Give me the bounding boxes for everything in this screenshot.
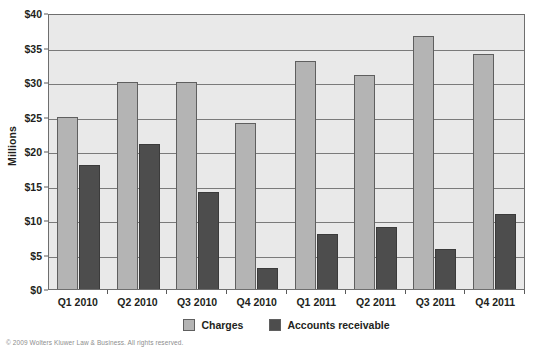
x-axis-tick-cell: [227, 290, 287, 295]
y-axis-tick-label: $25: [0, 112, 42, 124]
y-axis-tick-label: $15: [0, 181, 42, 193]
bar-group: [287, 15, 346, 289]
y-axis-tick-label: $40: [0, 8, 42, 20]
bar-charges: [354, 75, 375, 289]
y-axis-tick-label: $5: [0, 250, 42, 262]
x-axis-tick-label: Q1 2010: [48, 296, 108, 314]
legend-label: Accounts receivable: [287, 319, 389, 331]
x-axis-tick-label: Q3 2011: [406, 296, 466, 314]
legend-entry: Charges: [183, 319, 243, 331]
bar-charges: [413, 36, 434, 289]
bar-group: [108, 15, 167, 289]
y-axis-tick-label: $35: [0, 43, 42, 55]
bar-group: [346, 15, 405, 289]
legend-label: Charges: [201, 319, 243, 331]
x-axis-tick-label: Q3 2010: [167, 296, 227, 314]
bar-group: [49, 15, 108, 289]
y-axis-tick-labels: $0$5$10$15$20$25$30$35$40: [0, 0, 48, 349]
bars-layer: [49, 15, 524, 289]
bar-group: [227, 15, 286, 289]
bar-accounts-receivable: [79, 165, 100, 289]
bar-group: [465, 15, 524, 289]
x-axis-tick-mark: [524, 290, 525, 294]
x-axis-tick-cell: [108, 290, 168, 295]
bar-charges: [57, 117, 78, 290]
x-axis-tick-cell: [167, 290, 227, 295]
x-axis-tick-label: Q2 2011: [346, 296, 406, 314]
y-axis-tick-label: $10: [0, 215, 42, 227]
legend-swatch-icon: [183, 319, 195, 331]
x-axis-tick-cell: [287, 290, 347, 295]
bar-charges: [176, 82, 197, 289]
chart-legend: ChargesAccounts receivable: [48, 317, 525, 333]
bar-charges: [117, 82, 138, 289]
bar-accounts-receivable: [139, 144, 160, 289]
bar-accounts-receivable: [257, 268, 278, 289]
y-axis-tick-label: $30: [0, 77, 42, 89]
legend-swatch-icon: [269, 319, 281, 331]
x-axis-tick-label: Q2 2010: [108, 296, 168, 314]
x-axis-tick-labels: Q1 2010Q2 2010Q3 2010Q4 2010Q1 2011Q2 20…: [48, 296, 525, 314]
bar-charges: [473, 54, 494, 289]
bar-chart-figure: Millions $0$5$10$15$20$25$30$35$40 Q1 20…: [0, 0, 537, 349]
x-axis-tick-cell: [346, 290, 406, 295]
bar-accounts-receivable: [376, 227, 397, 289]
y-axis-tick-label: $0: [0, 284, 42, 296]
x-axis-tick-label: Q1 2011: [287, 296, 347, 314]
bar-charges: [295, 61, 316, 289]
legend-entry: Accounts receivable: [269, 319, 389, 331]
bar-accounts-receivable: [198, 192, 219, 289]
x-axis-tick-label: Q4 2011: [465, 296, 525, 314]
bar-accounts-receivable: [495, 214, 516, 289]
bar-charges: [235, 123, 256, 289]
x-axis-tick-label: Q4 2010: [227, 296, 287, 314]
x-axis-tick-cell: [48, 290, 108, 295]
footer-credit: © 2009 Wolters Kluwer Law & Business. Al…: [6, 339, 183, 346]
bar-accounts-receivable: [317, 234, 338, 289]
plot-area: [48, 14, 525, 290]
y-axis-tick-label: $20: [0, 146, 42, 158]
x-axis-tick-marks: [48, 290, 525, 295]
bar-accounts-receivable: [435, 249, 456, 289]
x-axis-tick-cell: [465, 290, 525, 295]
bar-group: [168, 15, 227, 289]
x-axis-tick-cell: [406, 290, 466, 295]
bar-group: [405, 15, 464, 289]
